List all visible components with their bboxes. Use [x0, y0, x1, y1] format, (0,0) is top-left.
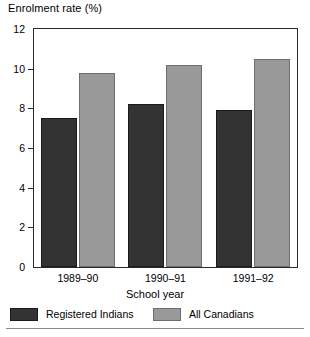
y-tick-label: 12 [13, 24, 25, 35]
legend-item: Registered Indians [10, 307, 134, 321]
y-tick-label: 2 [19, 222, 25, 233]
y-tick-label: 10 [13, 64, 25, 75]
x-axis-title: School year [0, 288, 310, 300]
bar-group [122, 29, 210, 267]
bar-group [209, 29, 297, 267]
footer-divider [6, 328, 304, 329]
bar-group [34, 29, 122, 267]
y-tick-label: 4 [19, 183, 25, 194]
legend-label: All Canadians [189, 308, 254, 320]
bar-1-2 [254, 59, 290, 267]
y-tick-label: 6 [19, 143, 25, 154]
y-axis: 024681012 [0, 0, 33, 337]
y-tick-label: 0 [19, 262, 25, 273]
legend-swatch [153, 308, 181, 321]
bar-0-0 [41, 118, 77, 267]
bar-0-2 [216, 110, 252, 267]
legend-label: Registered Indians [46, 308, 134, 320]
chart-figure: Enrolment rate (%) 024681012 School year… [0, 0, 310, 337]
x-tick-label: 1990–91 [122, 272, 210, 284]
x-tick-label: 1991–92 [209, 272, 297, 284]
bar-1-0 [79, 73, 115, 267]
legend-item: All Canadians [153, 307, 254, 321]
x-tick-label: 1989–90 [34, 272, 122, 284]
bar-1-1 [166, 65, 202, 267]
bar-0-1 [128, 104, 164, 267]
bars-layer [34, 29, 297, 267]
legend-swatch [10, 308, 38, 321]
chart-legend: Registered IndiansAll Canadians [10, 307, 300, 323]
y-tick-label: 8 [19, 103, 25, 114]
